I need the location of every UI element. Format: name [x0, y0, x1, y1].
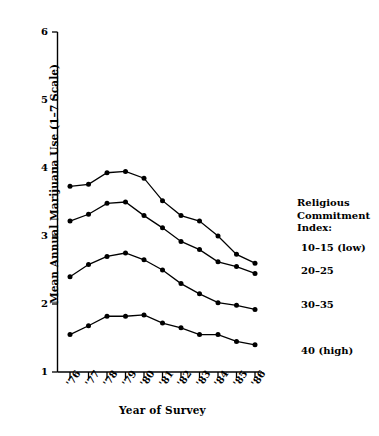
- series-label-40-high: 40 (high): [301, 345, 353, 356]
- y-tick-label: 6: [28, 26, 48, 37]
- data-point: [179, 239, 184, 244]
- data-point: [160, 198, 165, 203]
- series-line: [70, 171, 255, 263]
- legend-title-line-1: Religious: [297, 197, 370, 210]
- data-point: [142, 213, 147, 218]
- data-point: [179, 325, 184, 330]
- data-point: [197, 332, 202, 337]
- data-point: [86, 323, 91, 328]
- data-point: [179, 281, 184, 286]
- data-point: [216, 234, 221, 239]
- data-point: [86, 262, 91, 267]
- data-point: [253, 271, 258, 276]
- data-point: [123, 200, 128, 205]
- y-tick-label: 1: [28, 366, 48, 377]
- data-point: [86, 212, 91, 217]
- data-point: [86, 182, 91, 187]
- data-series-layer: [68, 169, 258, 347]
- data-point: [105, 170, 110, 175]
- data-point: [142, 312, 147, 317]
- data-point: [105, 254, 110, 259]
- series-3: [68, 251, 258, 312]
- data-point: [105, 201, 110, 206]
- y-tick-label: 5: [28, 94, 48, 105]
- data-point: [253, 261, 258, 266]
- data-point: [179, 213, 184, 218]
- data-point: [160, 321, 165, 326]
- data-point: [68, 274, 73, 279]
- series-line: [70, 202, 255, 273]
- data-point: [197, 247, 202, 252]
- data-point: [234, 252, 239, 257]
- series-1: [68, 169, 258, 266]
- x-axis-title: Year of Survey: [60, 404, 265, 416]
- series-label-10-15: 10–15 (low): [301, 242, 366, 253]
- data-point: [216, 300, 221, 305]
- series-label-30-35: 30–35: [301, 299, 334, 310]
- data-point: [160, 268, 165, 273]
- data-point: [123, 314, 128, 319]
- data-point: [216, 332, 221, 337]
- series-line: [70, 253, 255, 309]
- data-point: [123, 169, 128, 174]
- y-tick-label: 2: [28, 298, 48, 309]
- chart-figure: Mean Annual Marijuana Use (1–7 Scale) Ye…: [0, 0, 379, 436]
- y-axis-title: Mean Annual Marijuana Use (1–7 Scale): [48, 34, 60, 334]
- series-4: [68, 312, 258, 347]
- data-point: [68, 332, 73, 337]
- data-point: [234, 264, 239, 269]
- series-line: [70, 315, 255, 345]
- legend-title-line-3: Index:: [297, 222, 370, 235]
- data-point: [68, 184, 73, 189]
- data-point: [142, 176, 147, 181]
- data-point: [160, 225, 165, 230]
- data-point: [123, 251, 128, 256]
- data-point: [142, 257, 147, 262]
- y-tick-label: 4: [28, 162, 48, 173]
- data-point: [216, 259, 221, 264]
- data-point: [234, 303, 239, 308]
- legend-title: Religious Commitment Index:: [297, 197, 370, 235]
- data-point: [197, 291, 202, 296]
- y-tick-label: 3: [28, 230, 48, 241]
- series-label-20-25: 20–25: [301, 265, 334, 276]
- data-point: [105, 314, 110, 319]
- series-2: [68, 200, 258, 276]
- data-point: [253, 307, 258, 312]
- data-point: [197, 219, 202, 224]
- data-point: [234, 339, 239, 344]
- data-point: [253, 342, 258, 347]
- legend-title-line-2: Commitment: [297, 210, 370, 223]
- data-point: [68, 219, 73, 224]
